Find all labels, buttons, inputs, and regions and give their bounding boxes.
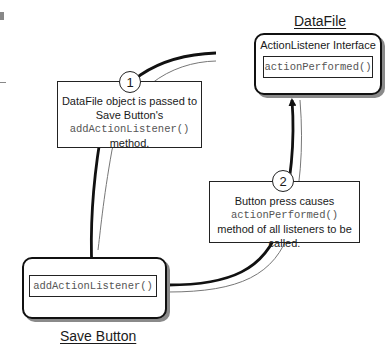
callout-1-code: addActionListener() bbox=[58, 122, 201, 136]
callout-2-text: Button press causes bbox=[210, 194, 359, 208]
save-button-title: Save Button bbox=[60, 328, 136, 344]
callout-2-text: method of all listeners to be bbox=[210, 222, 359, 236]
callout-2-text: called. bbox=[210, 236, 359, 250]
listener-diagram: DataFile ActionListener Interface action… bbox=[0, 0, 389, 349]
action-performed-method: actionPerformed() bbox=[263, 56, 373, 78]
add-action-listener-method: addActionListener() bbox=[29, 275, 157, 297]
callout-1-text: DataFile object is passed to bbox=[58, 94, 201, 108]
step-2-badge: 2 bbox=[272, 170, 294, 192]
step-1-badge: 1 bbox=[119, 71, 141, 93]
datafile-object: ActionListener Interface actionPerformed… bbox=[254, 33, 382, 95]
callout-2-code: actionPerformed() bbox=[210, 208, 359, 222]
datafile-title: DataFile bbox=[294, 13, 346, 29]
callout-1-text: Save Button's bbox=[58, 108, 201, 122]
save-button-object: addActionListener() bbox=[22, 257, 167, 319]
callout-1-text: method. bbox=[58, 136, 201, 150]
interface-label: ActionListener Interface bbox=[256, 39, 380, 51]
